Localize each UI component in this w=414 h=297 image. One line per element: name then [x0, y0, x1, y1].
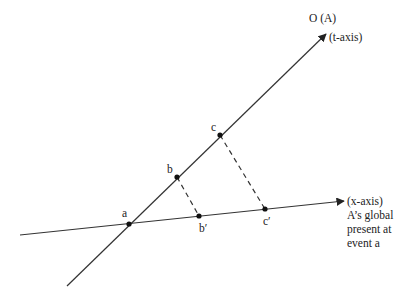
x-axis-annotation-line-1: A’s global [347, 209, 393, 222]
x-axis-line [20, 201, 344, 235]
spacetime-diagram: a b c b′ c′ O (A) (t-axis) (x-axis) A’s … [0, 0, 414, 297]
point-c [217, 132, 222, 137]
point-c-prime [262, 206, 267, 211]
x-axis-annotation-line-2: present at [347, 223, 392, 236]
label-b-prime: b′ [199, 222, 207, 234]
t-axis-label: (t-axis) [329, 31, 362, 44]
label-c-prime: c′ [263, 215, 271, 227]
x-axis-annotation-line-3: event a [347, 237, 380, 249]
label-a: a [122, 207, 127, 219]
projection-c-to-c-prime [220, 135, 265, 209]
t-axis-origin-label: O (A) [309, 12, 336, 25]
point-b-prime [196, 213, 201, 218]
point-a [126, 221, 131, 226]
label-c: c [211, 121, 216, 133]
projection-b-to-b-prime [177, 177, 199, 216]
x-axis-label: (x-axis) [347, 195, 383, 208]
t-axis-line [67, 34, 326, 286]
label-b: b [167, 163, 173, 175]
point-b [174, 174, 179, 179]
